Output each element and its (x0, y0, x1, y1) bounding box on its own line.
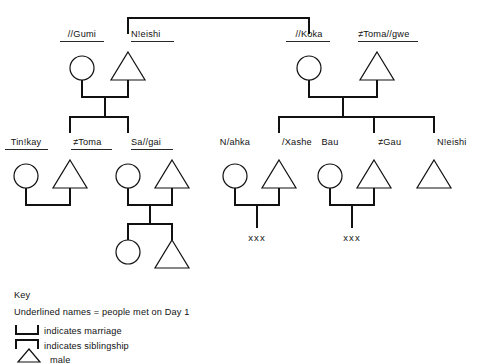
person-male-xashe (262, 160, 296, 188)
unknown-children-gau: xxx (343, 232, 361, 243)
person-female-gumi (70, 56, 94, 80)
g1-tomagwe-label: ≠Toma//gwe (358, 29, 409, 39)
g2-tinkay-label-group: Tin!kay (5, 137, 48, 149)
g2-bau-label: Bau (322, 137, 339, 147)
person-female-sagai (116, 164, 140, 188)
person-female-child-sagai (116, 240, 140, 264)
g1-gumi-label-group: //Gumi (60, 29, 104, 41)
g2-nahka-label: N/ahka (220, 137, 251, 147)
key-male-triangle-icon (18, 349, 40, 362)
person-male-tomagwe (360, 52, 394, 80)
unknown-children-xashe: xxx (248, 232, 266, 243)
g2-gau-label: ≠Gau (378, 137, 401, 147)
marriage-tinkay-toma (26, 188, 70, 205)
kinship-diagram-page: //Gumi N!eishi //Koka ≠Toma//gwe (0, 0, 494, 364)
key-marriage-label: indicates marriage (44, 326, 122, 336)
person-female-koka (297, 56, 321, 80)
g1-koka-label: //Koka (295, 29, 323, 39)
g2-sagai-label-group: Sa//gai (131, 137, 173, 149)
g2-tinkay-label: Tin!kay (11, 137, 42, 147)
g2-toma-label-group: ≠Toma (71, 137, 112, 149)
person-male-neishi (111, 52, 145, 80)
g1-neishi-label-group: N!eishi (131, 29, 174, 41)
marriage-sagai-husband (128, 188, 172, 240)
kinship-chart: //Gumi N!eishi //Koka ≠Toma//gwe (0, 0, 494, 364)
g1-tomagwe-label-group: ≠Toma//gwe (358, 29, 418, 41)
key-marriage-symbol (16, 325, 38, 334)
g2-toma-label: ≠Toma (73, 137, 102, 147)
g1-koka-label-group: //Koka (286, 29, 330, 41)
g2-xashe-label: /Xashe (282, 137, 312, 147)
marriage-nahka-xashe: xxx (235, 188, 279, 243)
marriage-gumi-neishi (70, 80, 128, 133)
g2-sagai-label: Sa//gai (131, 137, 161, 147)
key-note: Underlined names = people met on Day 1 (14, 307, 190, 317)
person-male-neishi2 (417, 160, 451, 188)
key-siblingship-symbol (16, 340, 38, 349)
marriage-bau-gau: xxx (330, 188, 374, 243)
g1-neishi-label: N!eishi (131, 29, 160, 39)
person-male-toma (53, 160, 87, 188)
key-legend: Key Underlined names = people met on Day… (14, 290, 190, 364)
g1-gumi-label: //Gumi (68, 29, 96, 39)
person-male-child-sagai (155, 240, 189, 268)
person-female-tinkay (14, 164, 38, 188)
person-male-gau (357, 160, 391, 188)
person-female-nahka (223, 164, 247, 188)
key-heading: Key (14, 290, 31, 300)
person-female-bau (318, 164, 342, 188)
key-siblingship-label: indicates siblingship (44, 341, 129, 351)
key-male-label: male (50, 355, 71, 364)
g2-neishi2-label: N!eishi (437, 137, 466, 147)
marriage-koka-tomagwe (279, 80, 434, 133)
person-male-sagai-husband (155, 160, 189, 188)
